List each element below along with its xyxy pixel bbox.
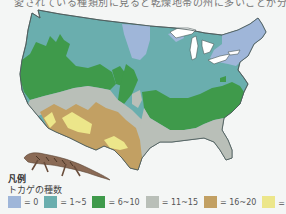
- legend-label: = 1~5: [60, 198, 86, 207]
- legend-label: = 0: [24, 198, 38, 207]
- legend-swatch-20plus: [262, 196, 275, 208]
- legend-swatch-1-5: [44, 196, 57, 208]
- legend-subtitle: トカゲの種数: [8, 183, 62, 196]
- legend-swatch-11-15: [146, 196, 159, 208]
- legend-item-1-5: = 1~5: [44, 196, 86, 208]
- legend-label: = 16~20: [220, 198, 256, 207]
- legend-label: = 11~15: [162, 198, 198, 207]
- legend-swatch-16-20: [204, 196, 217, 208]
- legend-swatch-0: [8, 196, 21, 208]
- legend-item-16-20: = 16~20: [204, 196, 256, 208]
- legend-label: = 20以上: [278, 197, 286, 208]
- legend: = 0 = 1~5 = 6~10 = 11~15 = 16~20 = 20以上: [8, 196, 286, 208]
- legend-item-0: = 0: [8, 196, 38, 208]
- legend-item-20plus: = 20以上: [262, 196, 286, 208]
- lizard-illustration: [22, 146, 112, 182]
- legend-swatch-6-10: [92, 196, 105, 208]
- legend-item-11-15: = 11~15: [146, 196, 198, 208]
- legend-label: = 6~10: [108, 198, 139, 207]
- legend-item-6-10: = 6~10: [92, 196, 139, 208]
